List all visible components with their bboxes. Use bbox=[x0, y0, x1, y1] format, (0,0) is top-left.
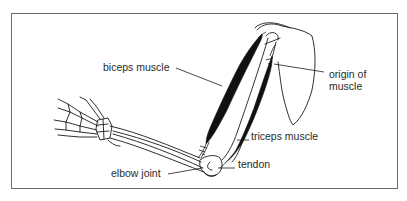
biceps-leader bbox=[176, 68, 222, 86]
triceps-tendon bbox=[220, 162, 226, 168]
biceps-muscle bbox=[206, 34, 262, 144]
finger-bone bbox=[58, 99, 98, 122]
arm-diagram bbox=[0, 0, 407, 201]
label-tendon: tendon bbox=[238, 158, 270, 170]
label-origin-line2: muscle bbox=[329, 80, 366, 92]
label-triceps-muscle: triceps muscle bbox=[251, 130, 318, 142]
label-biceps-muscle: biceps muscle bbox=[103, 61, 170, 73]
origin-leader bbox=[274, 64, 324, 72]
label-origin-line1: origin of bbox=[329, 68, 366, 80]
label-origin-of-muscle: origin of muscle bbox=[329, 68, 366, 92]
triceps-muscle bbox=[226, 56, 272, 162]
elbow-bone bbox=[200, 156, 222, 176]
label-elbow-joint: elbow joint bbox=[111, 167, 161, 179]
elbow-leader bbox=[168, 168, 202, 174]
